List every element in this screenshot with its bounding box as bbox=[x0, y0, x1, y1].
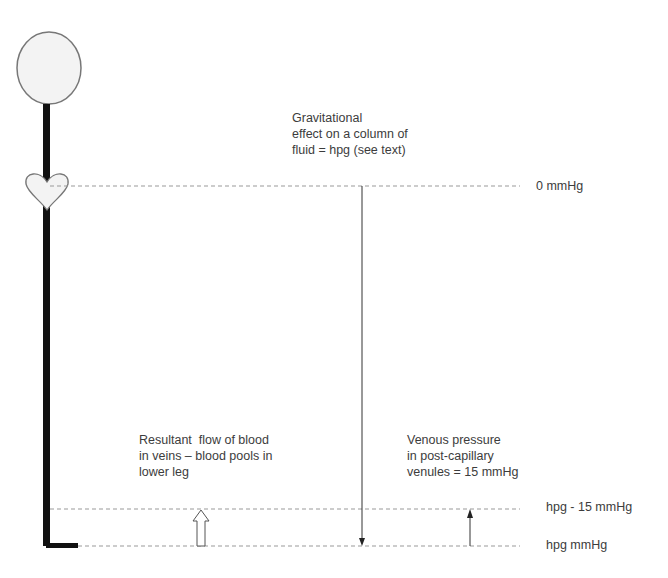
gravity-label-line2: effect on a column of bbox=[292, 126, 408, 142]
flow-hollow-arrow-icon bbox=[193, 510, 209, 546]
body-column bbox=[43, 104, 50, 546]
venous-label-line1: Venous pressure bbox=[407, 432, 501, 448]
venous-label-line2: in post-capillary bbox=[407, 448, 494, 464]
bottom-level-label: hpg mmHg bbox=[546, 537, 607, 553]
minus15-level-label: hpg - 15 mmHg bbox=[546, 499, 632, 515]
gravity-arrowhead-icon bbox=[359, 538, 365, 546]
gravity-label-line3: fluid = hpg (see text) bbox=[292, 142, 406, 158]
venous-label-line3: venules = 15 mmHg bbox=[407, 464, 519, 480]
gravity-label-line1: Gravitational bbox=[292, 110, 362, 126]
venous-arrowhead-icon bbox=[467, 509, 473, 518]
flow-label-line2: in veins – blood pools in bbox=[139, 448, 272, 464]
head-icon bbox=[17, 32, 81, 104]
flow-label-line3: lower leg bbox=[139, 464, 189, 480]
zero-level-label: 0 mmHg bbox=[536, 178, 583, 194]
diagram-canvas bbox=[0, 0, 668, 578]
flow-label-line1: Resultant flow of blood bbox=[139, 432, 269, 448]
foot-bar bbox=[46, 543, 78, 548]
